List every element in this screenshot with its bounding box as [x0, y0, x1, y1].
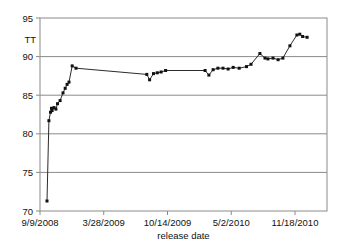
data-point-marker	[204, 69, 207, 72]
data-point-marker	[56, 102, 59, 105]
data-point-marker	[62, 91, 65, 94]
data-point-marker	[277, 58, 280, 61]
data-point-marker	[266, 57, 269, 60]
data-point-marker	[295, 34, 298, 37]
data-point-marker	[301, 35, 304, 38]
data-point-marker	[148, 78, 151, 81]
data-point-marker	[232, 66, 235, 69]
y-tick-label: 80	[22, 128, 33, 139]
data-point-marker	[47, 119, 50, 122]
y-tick-label: 75	[22, 167, 33, 178]
data-point-marker	[68, 81, 71, 84]
data-point-marker	[227, 68, 230, 71]
x-tick-label: 3/28/2009	[83, 217, 125, 228]
data-point-marker	[281, 57, 284, 60]
data-point-marker	[51, 109, 54, 112]
data-point-marker	[250, 63, 253, 66]
data-point-marker	[245, 65, 248, 68]
data-point-marker	[156, 71, 159, 74]
data-point-marker	[160, 71, 163, 74]
data-point-marker	[64, 87, 67, 90]
data-point-marker	[207, 74, 210, 77]
data-point-marker	[238, 67, 241, 70]
data-point-marker	[54, 108, 57, 111]
y-tick-label: 90	[22, 51, 33, 62]
chart-background	[0, 0, 345, 252]
data-point-marker	[306, 36, 309, 39]
data-point-marker	[59, 99, 62, 102]
tt-vs-release-date-chart: 7075808590959/9/20083/28/200910/14/20095…	[0, 0, 345, 252]
data-point-marker	[298, 33, 301, 36]
data-point-marker	[258, 52, 261, 55]
x-tick-label: 5/2/2010	[213, 217, 250, 228]
y-tick-label: 70	[22, 206, 33, 217]
y-tick-label: 85	[22, 90, 33, 101]
data-point-marker	[152, 72, 155, 75]
data-point-marker	[164, 69, 167, 72]
data-point-marker	[71, 64, 74, 67]
y-tick-label: 95	[22, 13, 33, 24]
data-point-marker	[75, 67, 78, 70]
data-point-marker	[145, 73, 148, 76]
y-axis-title: TT	[24, 34, 36, 45]
data-point-marker	[272, 57, 275, 60]
data-point-marker	[46, 200, 49, 203]
x-tick-label: 9/9/2008	[22, 217, 59, 228]
chart-figure: 7075808590959/9/20083/28/200910/14/20095…	[0, 0, 345, 252]
x-tick-label: 11/18/2010	[272, 217, 319, 228]
x-tick-label: 10/14/2009	[144, 217, 192, 228]
data-point-marker	[288, 44, 291, 47]
data-point-marker	[212, 68, 215, 71]
data-point-marker	[222, 67, 225, 70]
data-point-marker	[216, 67, 219, 70]
x-axis-title: release date	[157, 230, 209, 241]
data-point-marker	[264, 57, 267, 60]
